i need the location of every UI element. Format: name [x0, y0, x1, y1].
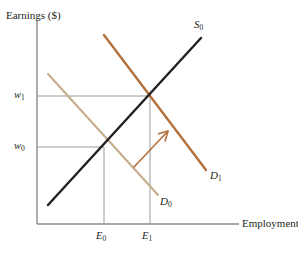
- curve-label-s0: S0: [194, 19, 203, 30]
- y-tick-w0-text: w: [14, 140, 21, 151]
- x-tick-e0: E0: [96, 231, 106, 242]
- demand-curve-d0: [48, 74, 158, 195]
- curve-label-d1-sub: 1: [218, 174, 222, 183]
- y-tick-w0: w0: [14, 141, 25, 152]
- curve-label-d1: D1: [210, 170, 222, 181]
- y-tick-w1: w1: [14, 90, 25, 101]
- y-axis-title: Earnings ($): [6, 10, 61, 21]
- x-axis-title: Employment: [242, 218, 298, 229]
- curve-label-d0-sub: 0: [168, 200, 172, 209]
- demand-shift-arrow: [134, 131, 168, 167]
- curve-label-s0-sub: 0: [200, 23, 204, 32]
- demand-curve-d1: [104, 35, 206, 170]
- curve-label-s0-text: S: [194, 18, 200, 30]
- supply-demand-chart: Earnings ($) Employment w1 w0 E0 E1 S0 D…: [0, 0, 298, 255]
- y-tick-w1-text: w: [14, 89, 21, 100]
- x-tick-e0-sub: 0: [102, 234, 106, 243]
- x-tick-e1: E1: [142, 231, 152, 242]
- curve-label-d0-text: D: [160, 195, 168, 207]
- curve-label-d0: D0: [160, 196, 172, 207]
- guide-lines-group: [37, 96, 150, 224]
- x-tick-e1-sub: 1: [148, 234, 152, 243]
- y-tick-w1-sub: 1: [21, 93, 25, 102]
- curve-label-d1-text: D: [210, 169, 218, 181]
- y-tick-w0-sub: 0: [21, 144, 25, 153]
- axes-group: [37, 20, 239, 224]
